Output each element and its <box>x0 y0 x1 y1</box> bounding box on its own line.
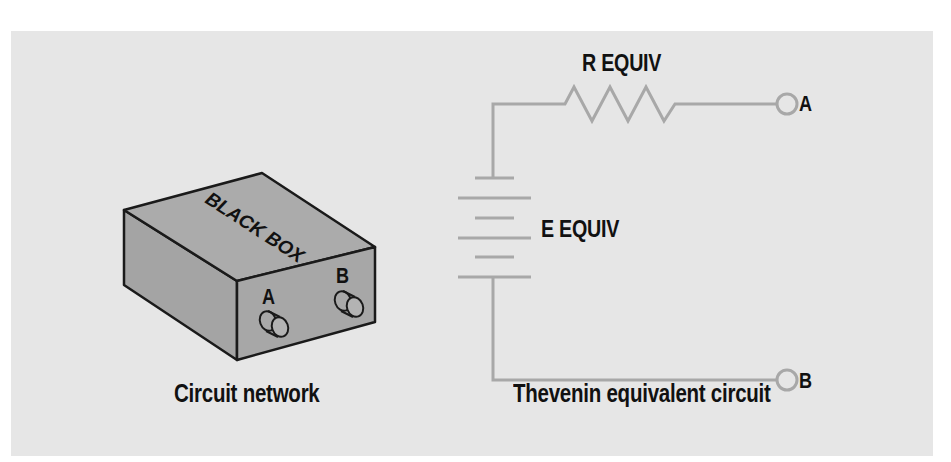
r-equiv-label: R EQUIV <box>582 49 661 77</box>
resistor-icon <box>493 87 777 177</box>
thevenin-circuit <box>458 87 797 390</box>
circuit-terminal-b-label: B <box>799 368 812 394</box>
terminal-a-icon <box>777 94 797 114</box>
box-terminal-b-label: B <box>336 263 349 289</box>
battery-icon <box>458 178 531 277</box>
circuit-network-caption: Circuit network <box>174 379 320 408</box>
terminal-b-icon <box>777 370 797 390</box>
e-equiv-label: E EQUIV <box>541 215 619 243</box>
circuit-terminal-a-label: A <box>799 91 812 117</box>
thevenin-caption: Thevenin equivalent circuit <box>513 379 771 408</box>
box-terminal-a-label: A <box>262 284 275 310</box>
